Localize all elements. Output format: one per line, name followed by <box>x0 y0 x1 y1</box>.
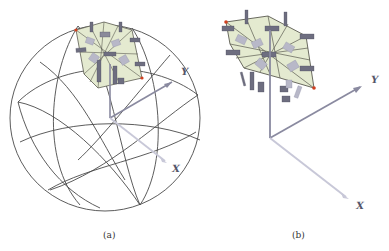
sphere-wireframe-diagram <box>0 0 215 251</box>
panel-caption-b: (b) <box>292 230 305 240</box>
panel-caption-a: (a) <box>103 230 115 240</box>
x-axis-label-b: X <box>355 200 365 211</box>
x-axis-label-a: X <box>171 163 181 174</box>
figure-panel-b: Y X (b) <box>200 0 389 251</box>
figure-panel-a: Y X (a) <box>0 0 215 251</box>
dome-panel-diagram <box>200 0 389 251</box>
